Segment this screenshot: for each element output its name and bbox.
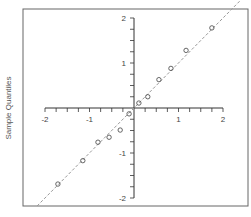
data-point: [107, 135, 111, 139]
data-point: [118, 128, 122, 132]
data-point: [146, 95, 150, 99]
x-tick-label: -2: [41, 115, 49, 124]
y-tick-label: -2: [119, 194, 127, 203]
qq-plot: Sample Quantiles -2-11221-1-2: [0, 0, 251, 217]
y-axis-title: Sample Quantiles: [4, 76, 13, 139]
y-tick-label: 2: [122, 14, 127, 23]
y-tick-label: 1: [122, 59, 127, 68]
data-point: [137, 101, 141, 105]
reference-line-layer: [37, 0, 247, 206]
y-tick-label: -1: [119, 149, 127, 158]
x-tick-label: -1: [86, 115, 94, 124]
points-layer: [56, 26, 214, 187]
x-tick-label: 2: [221, 115, 226, 124]
x-tick-label: 1: [176, 115, 181, 124]
reference-line: [37, 0, 247, 206]
data-point: [157, 77, 161, 81]
data-point: [184, 48, 188, 52]
